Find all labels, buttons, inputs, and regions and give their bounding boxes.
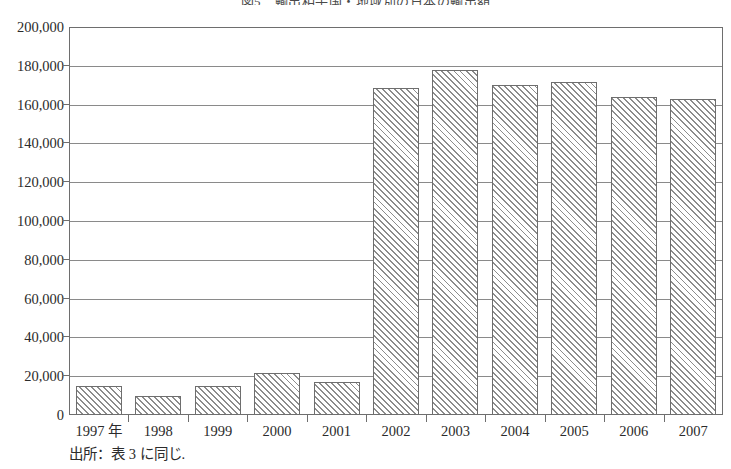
bar [76,386,122,415]
bar [551,82,597,415]
y-axis-tick-mark [62,259,69,260]
y-axis-tick-label: 100,000 [2,214,64,229]
y-axis-labels: 020,00040,00060,00080,000100,000120,0001… [0,0,64,469]
y-axis-tick-label: 20,000 [2,369,64,384]
y-axis-tick-mark [62,181,69,182]
y-axis-tick-mark [62,142,69,143]
bar [254,373,300,415]
x-axis-tick-label: 1997 年 [69,421,128,441]
x-axis-tick-label: 1998 [128,421,187,441]
y-axis-tick-label: 0 [2,408,64,423]
y-axis-tick-mark [62,65,69,66]
y-axis-tick-label: 180,000 [2,59,64,74]
x-axis-tick-label: 2002 [366,421,425,441]
x-axis-tick-label: 2001 [307,421,366,441]
bar [492,85,538,415]
bar [373,88,419,415]
x-axis-tick-label: 2005 [545,421,604,441]
chart-page: 図5 輸出相手国・地域別の日本の輸出額 020,00040,00060,0008… [0,0,731,469]
y-axis-tick-mark [62,336,69,337]
bars-layer [69,27,723,415]
y-axis-tick-label: 60,000 [2,291,64,306]
bar [611,97,657,415]
bar [195,386,241,415]
x-axis-tick-label: 2004 [485,421,544,441]
y-axis-tick-label: 140,000 [2,136,64,151]
x-axis-tick-label: 1999 [188,421,247,441]
y-axis-tick-label: 120,000 [2,175,64,190]
y-axis-tick-label: 40,000 [2,330,64,345]
chart-title: 図5 輸出相手国・地域別の日本の輸出額 [0,0,731,5]
bar [432,70,478,415]
y-axis-tick-mark [62,104,69,105]
bar [135,396,181,415]
x-axis-labels: 1997 年1998199920002001200220032004200520… [69,421,723,443]
y-axis-tick-mark [62,375,69,376]
x-axis-tick-label: 2003 [426,421,485,441]
y-axis-tick-label: 200,000 [2,20,64,35]
x-axis-tick-label: 2006 [604,421,663,441]
x-axis-tick-label: 2007 [664,421,723,441]
y-axis-tick-label: 80,000 [2,253,64,268]
y-axis-tick-mark [62,298,69,299]
y-axis-tick-label: 160,000 [2,97,64,112]
x-axis-tick-label: 2000 [247,421,306,441]
bar [670,99,716,415]
bar [314,382,360,415]
source-note: 出所：表 3 に同じ. [69,443,185,465]
y-axis-tick-mark [62,220,69,221]
